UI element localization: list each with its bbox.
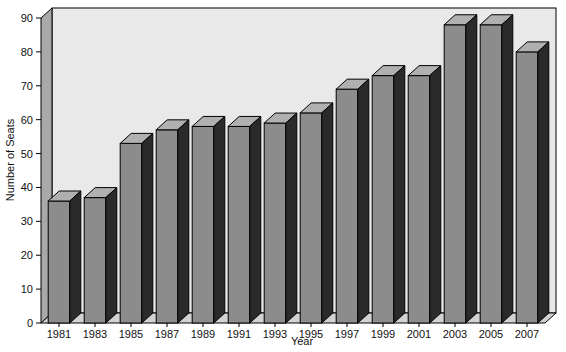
bar-front-face — [264, 123, 286, 323]
bar-front-face — [84, 198, 106, 323]
x-tick-label: 2003 — [443, 328, 467, 340]
bar-front-face — [48, 201, 70, 323]
y-tick-label: 50 — [21, 148, 33, 160]
bar-front-face — [408, 76, 430, 323]
bar-side-face — [178, 120, 189, 323]
bar-side-face — [250, 116, 261, 323]
chart-canvas: 0102030405060708090 19811983198519871989… — [0, 0, 566, 352]
bar-front-face — [228, 126, 250, 323]
bar — [408, 66, 441, 323]
x-tick-label: 1997 — [335, 328, 359, 340]
bar — [300, 103, 333, 323]
bar-side-face — [286, 113, 297, 323]
bar — [372, 66, 405, 323]
bar — [444, 15, 477, 323]
y-tick-label: 60 — [21, 114, 33, 126]
y-tick-label: 40 — [21, 181, 33, 193]
bar-front-face — [372, 76, 394, 323]
bar-front-face — [192, 126, 214, 323]
bar — [192, 116, 225, 323]
bar-front-face — [120, 143, 142, 323]
bar-front-face — [336, 89, 358, 323]
x-tick-label: 1991 — [227, 328, 251, 340]
bar-front-face — [516, 52, 538, 323]
y-tick-label: 90 — [21, 12, 33, 24]
bar-front-face — [300, 113, 322, 323]
x-tick-label: 2001 — [407, 328, 431, 340]
x-tick-label: 1983 — [83, 328, 107, 340]
x-tick-label: 2007 — [515, 328, 539, 340]
bar-side-face — [430, 66, 441, 323]
bar-side-face — [466, 15, 477, 323]
y-axis-title: Number of Seats — [4, 118, 16, 201]
bar — [516, 42, 549, 323]
y-tick-label: 0 — [27, 317, 33, 329]
bar — [48, 191, 81, 323]
x-axis-title: Year — [291, 335, 314, 347]
y-axis-ticks: 0102030405060708090 — [21, 12, 33, 329]
y-tick-label: 20 — [21, 249, 33, 261]
x-tick-label: 1987 — [155, 328, 179, 340]
bar-chart: 0102030405060708090 19811983198519871989… — [0, 0, 566, 352]
bar-side-face — [322, 103, 333, 323]
bar — [228, 116, 261, 323]
bar-side-face — [394, 66, 405, 323]
bar-side-face — [214, 116, 225, 323]
bar — [84, 188, 117, 323]
plot-floor — [41, 313, 556, 323]
bar — [336, 79, 369, 323]
bar-side-face — [142, 133, 153, 323]
bar-front-face — [480, 25, 502, 323]
y-tick-label: 30 — [21, 215, 33, 227]
bar-front-face — [156, 130, 178, 323]
x-tick-label: 1999 — [371, 328, 395, 340]
bar-side-face — [106, 188, 117, 323]
bar — [480, 15, 513, 323]
x-tick-label: 1985 — [119, 328, 143, 340]
x-tick-label: 1993 — [263, 328, 287, 340]
bar-side-face — [70, 191, 81, 323]
bar — [156, 120, 189, 323]
bar-side-face — [502, 15, 513, 323]
plot-enclosure — [41, 8, 556, 323]
y-tick-label: 70 — [21, 80, 33, 92]
x-tick-label: 1981 — [47, 328, 71, 340]
y-tick-label: 10 — [21, 283, 33, 295]
x-tick-label: 1989 — [191, 328, 215, 340]
bar — [120, 133, 153, 323]
bar-side-face — [358, 79, 369, 323]
bar-side-face — [538, 42, 549, 323]
y-tick-label: 80 — [21, 46, 33, 58]
x-tick-label: 2005 — [479, 328, 503, 340]
bar — [264, 113, 297, 323]
bar-front-face — [444, 25, 466, 323]
